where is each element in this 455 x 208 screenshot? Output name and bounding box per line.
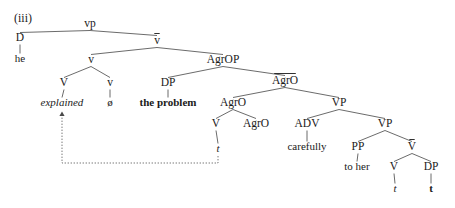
tree-node-label: vp	[84, 17, 96, 30]
tree-node-layer: vpDhevvVexplainedvøAgrOPDPthe problemAgr…	[15, 17, 439, 194]
tree-node-label: PP	[352, 140, 365, 152]
tree-node-label: V	[390, 160, 399, 172]
tree-node-label: AgrOP	[207, 53, 240, 66]
tree-branch	[168, 67, 223, 78]
tree-terminal-label: carefully	[287, 140, 327, 152]
tree-terminal-label: t	[216, 142, 220, 154]
tree-node-label: V	[60, 76, 69, 88]
tree-terminal-label: t	[429, 182, 433, 194]
tree-node-label: AgrO	[243, 117, 269, 130]
tree-terminal-label: the problem	[140, 96, 197, 108]
tree-node-label: DP	[424, 160, 439, 172]
tree-node-label: ADV	[295, 117, 321, 129]
movement-arrow-layer	[59, 112, 218, 164]
tree-node-label: AgrO	[272, 74, 298, 87]
tree-node-label: AgrO	[220, 96, 246, 109]
tree-node-label: VP	[332, 96, 347, 108]
tree-terminal-label: he	[15, 52, 26, 64]
tree-branch	[20, 31, 90, 33]
movement-arrowhead-icon	[59, 112, 64, 117]
tree-terminal-label: ø	[107, 96, 113, 108]
syntax-tree-diagram: vpDhevvVexplainedvøAgrOPDPthe problemAgr…	[0, 0, 455, 208]
tree-node-label: v	[88, 53, 94, 65]
example-number: (iii)	[14, 11, 32, 25]
tree-branch	[90, 31, 157, 36]
tree-node-label: V	[212, 117, 221, 129]
tree-node-label: VP	[378, 117, 393, 129]
figure-canvas: vpDhevvVexplainedvøAgrOPDPthe problemAgr…	[0, 0, 455, 208]
tree-branch	[91, 48, 157, 55]
tree-node-label: DP	[161, 76, 176, 88]
tree-node-label: D	[16, 31, 24, 43]
tree-terminal-label: to her	[344, 160, 370, 172]
tree-terminal-label: explained	[41, 96, 84, 108]
tree-terminal-label: t	[393, 182, 397, 194]
tree-node-label: v	[154, 34, 160, 46]
tree-node-label: v	[107, 76, 113, 88]
tree-node-label: V	[408, 140, 417, 152]
movement-trace-line	[62, 113, 218, 163]
